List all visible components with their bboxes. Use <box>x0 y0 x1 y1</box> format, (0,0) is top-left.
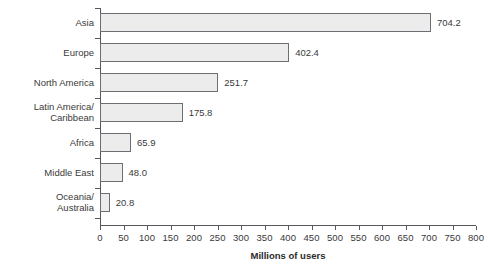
bar <box>100 73 218 92</box>
x-axis-tick <box>124 226 125 230</box>
x-axis-tick <box>218 226 219 230</box>
x-axis-tick <box>288 226 289 230</box>
bar <box>100 43 289 62</box>
bar-row: North America251.7 <box>0 68 488 98</box>
bar-row: Latin America/ Caribbean175.8 <box>0 98 488 128</box>
y-axis-tick <box>95 218 100 219</box>
x-axis-tick <box>476 226 477 230</box>
bar <box>100 103 183 122</box>
bar <box>100 13 431 32</box>
x-axis-tick <box>312 226 313 230</box>
bar-value-label: 20.8 <box>116 197 135 208</box>
bar-value-label: 48.0 <box>129 167 148 178</box>
y-axis-tick <box>95 68 100 69</box>
x-axis-tick <box>194 226 195 230</box>
x-axis-tick <box>147 226 148 230</box>
bar <box>100 163 123 182</box>
x-axis-tick <box>100 226 101 230</box>
y-axis-tick <box>95 38 100 39</box>
bar-value-label: 251.7 <box>224 77 248 88</box>
bar-value-label: 65.9 <box>137 137 156 148</box>
bar-row: Middle East48.0 <box>0 158 488 188</box>
category-label: Africa <box>0 137 94 148</box>
x-axis-title: Millions of users <box>100 250 476 261</box>
x-axis-tick <box>453 226 454 230</box>
category-label: Latin America/ Caribbean <box>0 101 94 123</box>
bar <box>100 133 131 152</box>
x-axis-tick <box>335 226 336 230</box>
bar-value-label: 704.2 <box>437 17 461 28</box>
bar-row: Africa65.9 <box>0 128 488 158</box>
x-axis-tick <box>171 226 172 230</box>
bar <box>100 193 110 212</box>
bar-value-label: 402.4 <box>295 47 319 58</box>
category-label: North America <box>0 77 94 88</box>
bar-row: Oceania/ Australia20.8 <box>0 188 488 218</box>
bar-chart: Asia704.2Europe402.4North America251.7La… <box>0 0 488 274</box>
y-axis-tick <box>95 98 100 99</box>
x-axis-tick <box>241 226 242 230</box>
y-axis-tick <box>95 188 100 189</box>
category-label: Asia <box>0 17 94 28</box>
category-label: Europe <box>0 47 94 58</box>
y-axis-tick <box>95 128 100 129</box>
y-axis-tick <box>95 158 100 159</box>
y-axis-tick <box>95 8 100 9</box>
bar-row: Europe402.4 <box>0 38 488 68</box>
bar-row: Asia704.2 <box>0 8 488 38</box>
x-axis-tick <box>406 226 407 230</box>
x-axis-tick-label: 800 <box>456 232 488 243</box>
x-axis-tick <box>429 226 430 230</box>
category-label: Middle East <box>0 167 94 178</box>
x-axis-tick <box>359 226 360 230</box>
x-axis-tick <box>265 226 266 230</box>
bar-value-label: 175.8 <box>189 107 213 118</box>
category-label: Oceania/ Australia <box>0 191 94 213</box>
x-axis-tick <box>382 226 383 230</box>
